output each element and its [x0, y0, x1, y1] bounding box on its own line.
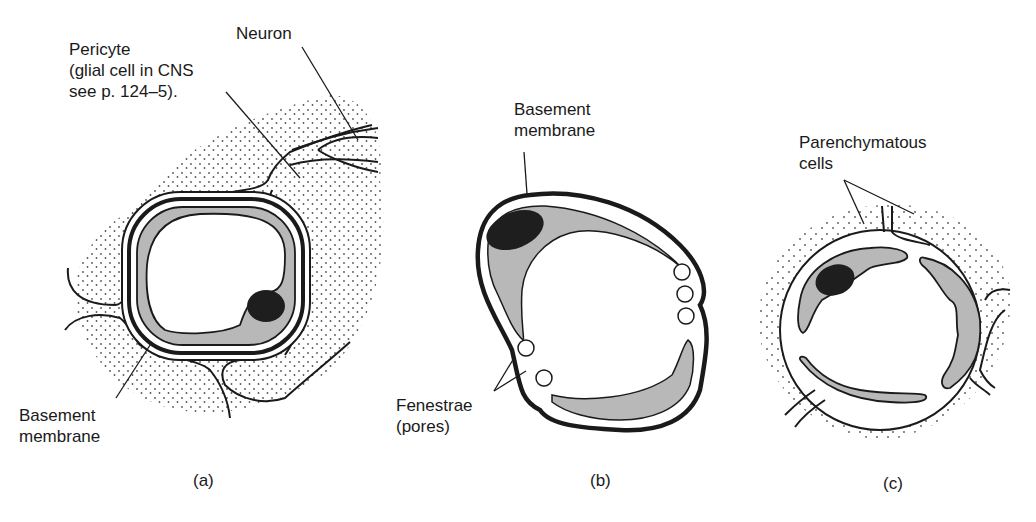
panel-b-fenestrated-capillary: [478, 152, 707, 430]
fenestra-pore: [536, 370, 552, 386]
endothelial-nucleus: [247, 290, 285, 322]
label-basement-line1: Basement: [514, 99, 595, 120]
label-fenestrae-line2: (pores): [396, 416, 473, 437]
label-neuron: Neuron: [236, 23, 292, 44]
capillary-types-figure: Pericyte (glial cell in CNS see p. 124–5…: [0, 0, 1036, 522]
label-fenestrae: Fenestrae (pores): [396, 395, 473, 437]
label-parenchymatous-cells: Parenchymatous cells: [799, 132, 927, 174]
label-basement-line1: Basement: [19, 405, 100, 426]
panel-caption-b: (b): [590, 471, 611, 491]
label-parenchymatous-line2: cells: [799, 153, 927, 174]
fenestra-pore: [678, 308, 694, 324]
fenestra-pore: [677, 286, 693, 302]
label-pericyte-line2: (glial cell in CNS: [69, 60, 194, 81]
panel-c-sinusoidal-capillary: [758, 180, 1011, 440]
panel-caption-a: (a): [193, 471, 214, 491]
panel-a-continuous-capillary: [65, 47, 383, 418]
label-fenestrae-line1: Fenestrae: [396, 395, 473, 416]
label-pericyte-line3: see p. 124–5).: [69, 81, 194, 102]
label-basement-membrane-a: Basement membrane: [19, 405, 100, 447]
fenestra-pore: [518, 340, 534, 356]
label-basement-membrane-b: Basement membrane: [514, 99, 595, 141]
label-basement-line2: membrane: [514, 120, 595, 141]
panel-caption-c: (c): [883, 474, 903, 494]
basement-leader-line-b: [524, 152, 527, 194]
label-pericyte: Pericyte (glial cell in CNS see p. 124–5…: [69, 39, 194, 102]
label-pericyte-line1: Pericyte: [69, 39, 194, 60]
fenestrae-leader-line: [494, 358, 514, 391]
fenestra-pore: [674, 264, 690, 280]
label-basement-line2: membrane: [19, 426, 100, 447]
label-parenchymatous-line1: Parenchymatous: [799, 132, 927, 153]
